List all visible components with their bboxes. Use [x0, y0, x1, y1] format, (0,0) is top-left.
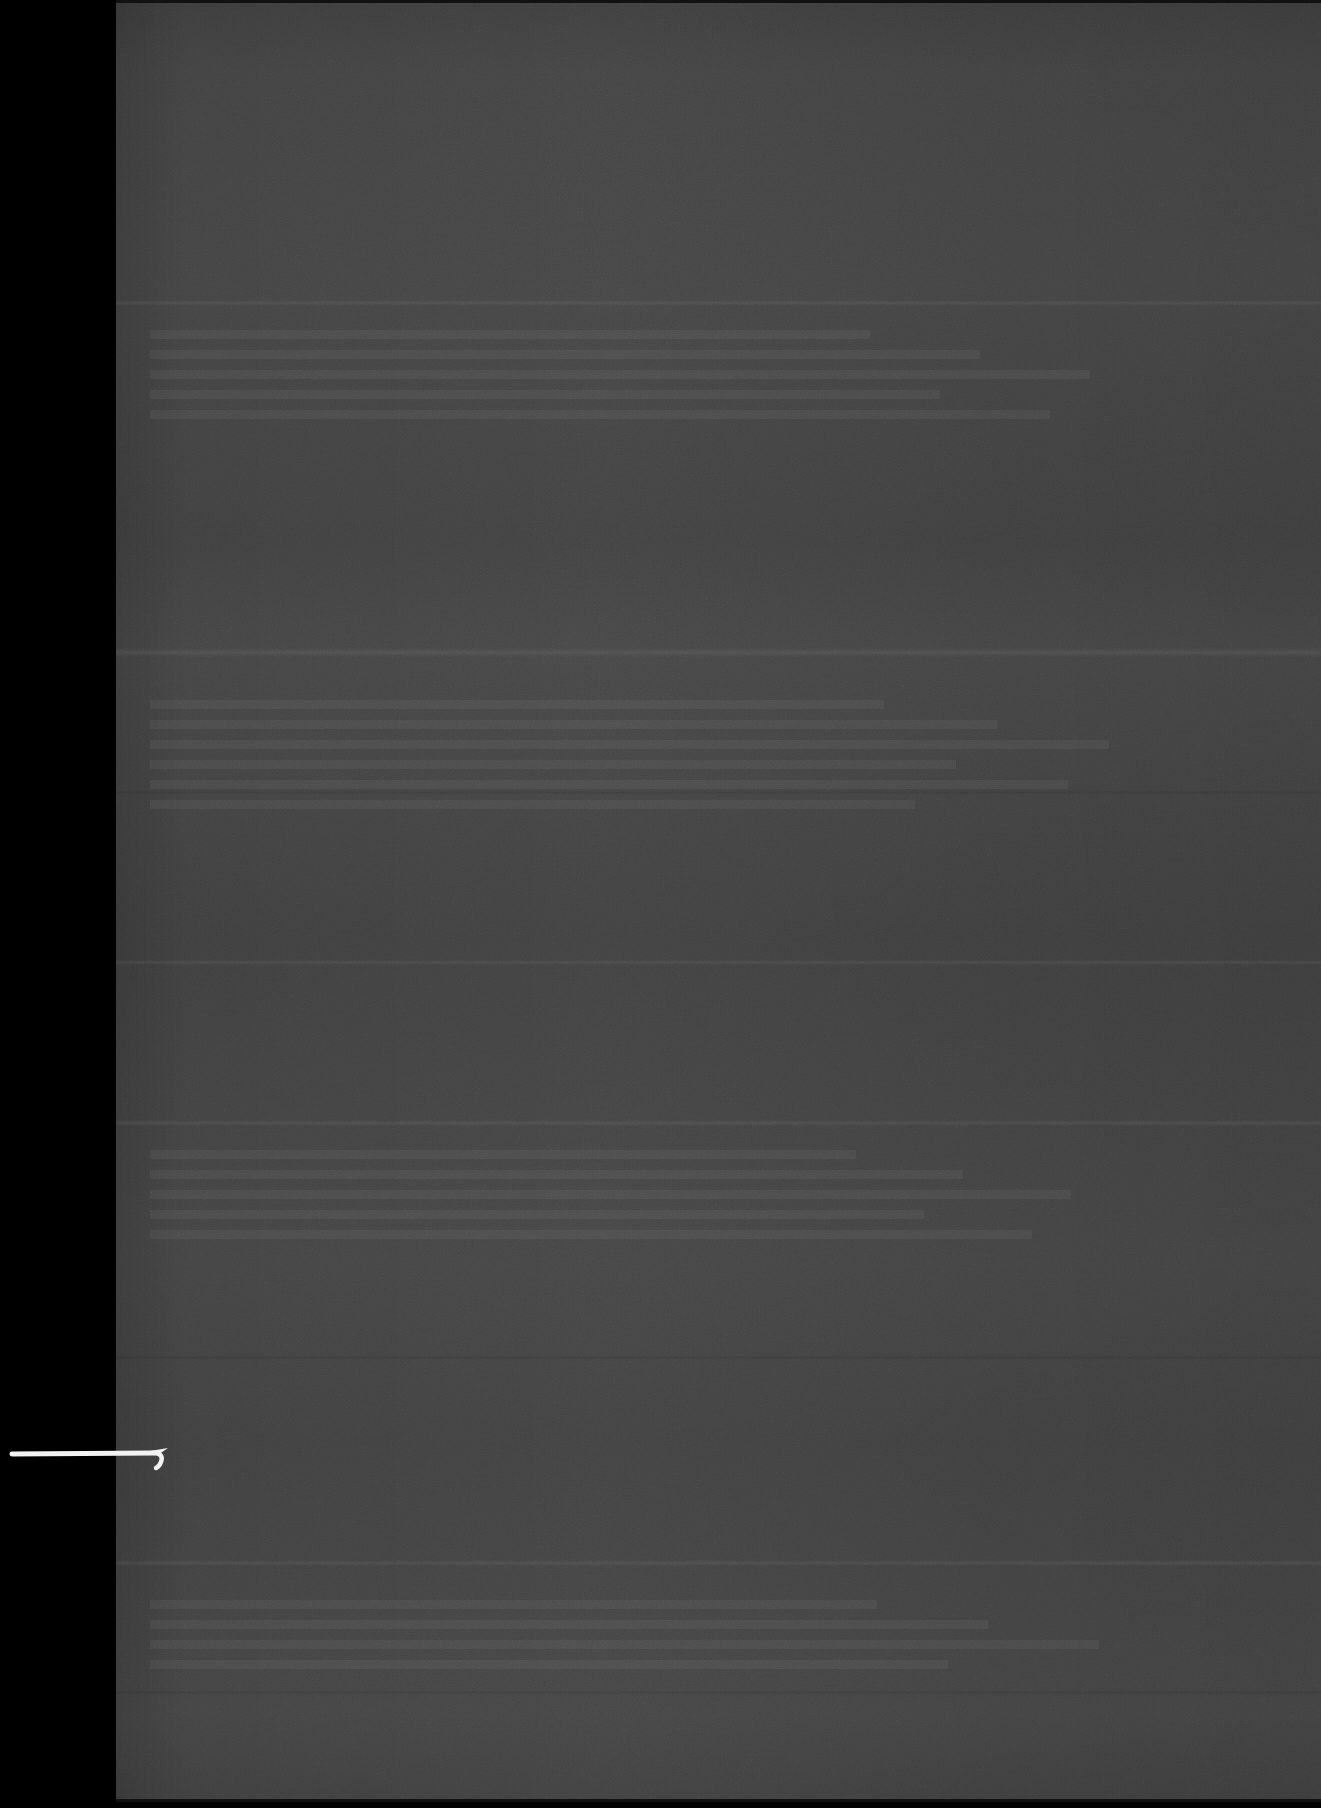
scanned-page-root — [0, 0, 1321, 1808]
sheet-top-rule — [116, 0, 1321, 3]
exposure-falloff-horizontal — [116, 0, 1321, 1804]
bottom-black-strip — [0, 1802, 1321, 1808]
page-surface — [116, 0, 1321, 1804]
left-black-margin — [0, 0, 116, 1808]
